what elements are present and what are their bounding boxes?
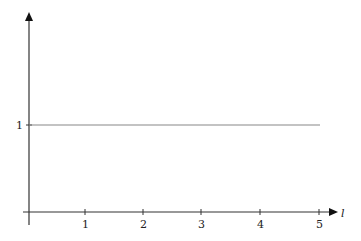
x-tick-label-4: 4 — [257, 219, 264, 230]
x-axis-label: l — [341, 208, 345, 219]
y-tick-label-1: 1 — [16, 120, 23, 131]
chart-canvas — [0, 0, 361, 241]
x-tick-label-5: 5 — [316, 219, 323, 230]
x-tick-label-2: 2 — [140, 219, 147, 230]
x-tick-label-3: 3 — [198, 219, 205, 230]
x-axis-arrow-icon — [329, 208, 338, 216]
y-axis-arrow-icon — [25, 12, 33, 21]
x-tick-label-1: 1 — [82, 219, 89, 230]
